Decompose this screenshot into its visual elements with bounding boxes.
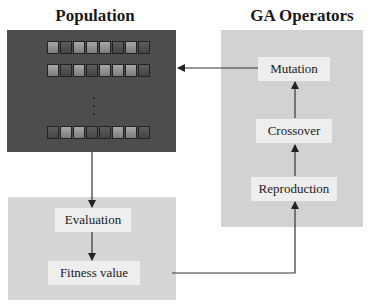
- arrow-fitness-to-reproduction: [172, 202, 295, 273]
- flow-arrows: [0, 0, 371, 307]
